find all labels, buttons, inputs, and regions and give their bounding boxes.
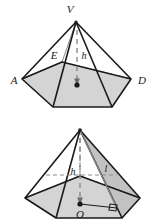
lower-apex-dot [78,128,82,132]
upper-apex-label: V [67,3,75,15]
lower-base-center-dot [77,201,82,206]
lower-pyramid-diagram: h l O [0,112,155,221]
lower-height-label: h [71,166,76,177]
upper-vertex-d-label: D [137,74,146,86]
upper-vertex-a-label: A [10,74,18,86]
upper-pyramid-diagram: V A B C D E h [0,0,155,112]
pyramid-figure-container: V A B C D E h [0,0,155,221]
lower-slant-height-label: l [105,163,108,174]
upper-base-center-dot [74,82,79,87]
upper-apex-dot [74,20,77,23]
upper-height-label: h [82,50,87,61]
upper-vertex-e-label: E [50,49,58,61]
lower-center-label: O [76,208,84,220]
